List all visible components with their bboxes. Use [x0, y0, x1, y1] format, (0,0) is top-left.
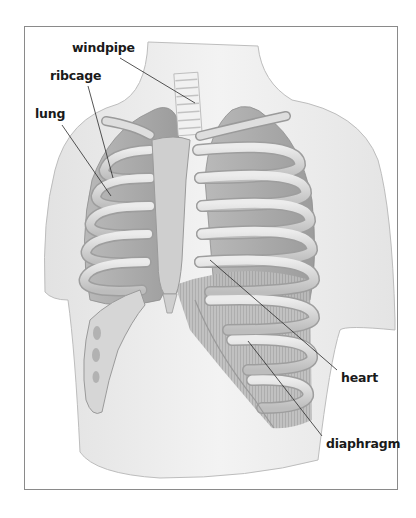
- label-windpipe: windpipe: [72, 42, 135, 55]
- label-lung: lung: [35, 108, 65, 121]
- label-diaphragm: diaphragm: [326, 438, 400, 451]
- label-ribcage: ribcage: [50, 70, 101, 83]
- windpipe: [174, 72, 202, 136]
- label-heart: heart: [341, 372, 378, 385]
